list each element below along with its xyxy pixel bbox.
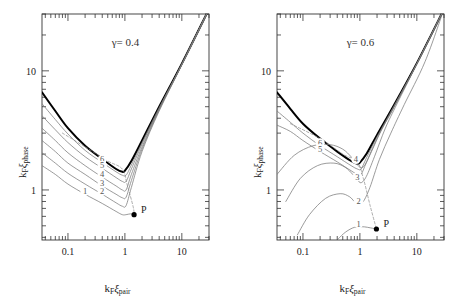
curve-label-2: 2 bbox=[100, 186, 104, 196]
curve-label-3: 3 bbox=[355, 172, 359, 182]
curve-label-1: 1 bbox=[83, 186, 87, 196]
gamma-annotation: γ= 0.4 bbox=[111, 36, 140, 48]
gamma-annotation: γ= 0.6 bbox=[346, 36, 375, 48]
x-tick-label: 1 bbox=[122, 246, 127, 257]
y-label-xi: ξ bbox=[16, 164, 28, 169]
x-tick-label: 10 bbox=[412, 246, 422, 257]
y-label-sub-phase: phase bbox=[21, 147, 30, 164]
panel-right-plot: 0.1110110654321γ= 0.6P bbox=[235, 0, 470, 302]
y-tick-label: 1 bbox=[31, 185, 36, 196]
x-tick-label: 0.1 bbox=[297, 246, 310, 257]
y-label-sub-F: F bbox=[256, 168, 265, 172]
curve-6 bbox=[277, 9, 444, 170]
point-P-label: P bbox=[383, 218, 389, 229]
y-label-sub-phase: phase bbox=[256, 147, 265, 164]
curve-label-2: 2 bbox=[357, 196, 361, 206]
curve-envelope bbox=[277, 9, 444, 164]
y-label-k: k bbox=[16, 173, 28, 179]
y-label-k: k bbox=[251, 173, 263, 179]
figure-root: 0.1110110654321γ= 0.4P kFξphase kFξpair … bbox=[0, 0, 470, 302]
x-label-sub-pair: pair bbox=[354, 287, 366, 296]
curve-dashed bbox=[290, 124, 376, 229]
x-tick-label: 1 bbox=[357, 246, 362, 257]
curve-6 bbox=[42, 9, 209, 176]
panel-left-plot: 0.1110110654321γ= 0.4P bbox=[0, 0, 235, 302]
panel-left: 0.1110110654321γ= 0.4P kFξphase kFξpair bbox=[0, 0, 235, 302]
curve-4 bbox=[277, 9, 444, 174]
curve-envelope bbox=[42, 9, 209, 172]
x-axis-label-left: kFξpair bbox=[0, 282, 235, 296]
curve-label-1: 1 bbox=[357, 219, 361, 229]
curve-label-5: 5 bbox=[318, 144, 322, 154]
y-axis-label-right: kFξphase bbox=[251, 147, 265, 178]
x-axis-label-right: kFξpair bbox=[235, 282, 470, 296]
x-label-sub-pair: pair bbox=[119, 287, 131, 296]
x-tick-label: 10 bbox=[177, 246, 187, 257]
y-tick-label: 10 bbox=[261, 66, 271, 77]
y-tick-label: 1 bbox=[266, 185, 271, 196]
point-P-marker bbox=[131, 212, 136, 217]
panel-right: 0.1110110654321γ= 0.6P kFξphase kFξpair bbox=[235, 0, 470, 302]
y-label-sub-F: F bbox=[21, 168, 30, 172]
point-P-marker bbox=[374, 226, 379, 231]
y-axis-label-left: kFξphase bbox=[16, 147, 30, 178]
x-tick-label: 0.1 bbox=[62, 246, 75, 257]
y-tick-label: 10 bbox=[26, 66, 36, 77]
y-label-xi: ξ bbox=[251, 164, 263, 169]
curve-label-4: 4 bbox=[354, 154, 359, 164]
point-P-label: P bbox=[141, 204, 147, 215]
